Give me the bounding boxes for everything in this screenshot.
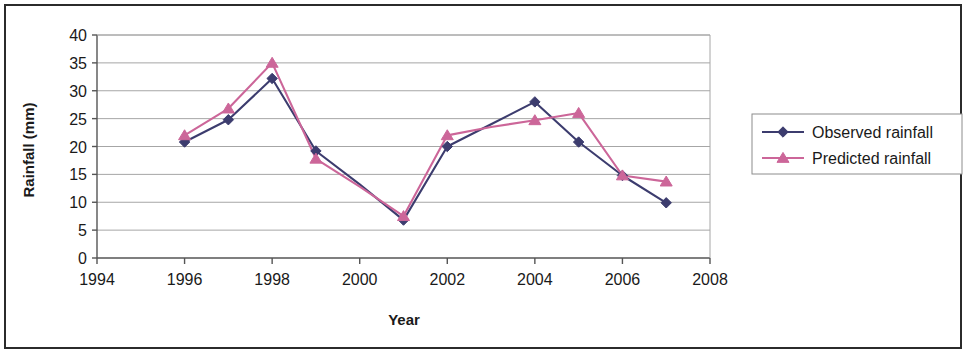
data-point-marker <box>573 107 585 117</box>
x-tick-label: 2002 <box>429 271 465 288</box>
data-point-marker <box>179 130 191 140</box>
x-axis-title: Year <box>388 311 420 328</box>
legend-label: Observed rainfall <box>812 124 933 141</box>
y-tick-label: 10 <box>69 194 87 211</box>
y-axis-title: Rainfall (mm) <box>20 102 37 197</box>
y-tick-label: 0 <box>78 250 87 267</box>
x-tick-label: 2004 <box>517 271 553 288</box>
y-tick-labels: 0510152025303540 <box>69 27 97 267</box>
y-tick-label: 15 <box>69 166 87 183</box>
data-series <box>179 57 673 225</box>
y-tick-label: 30 <box>69 83 87 100</box>
x-tick-label: 2000 <box>342 271 378 288</box>
legend: Observed rainfallPredicted rainfall <box>752 114 962 174</box>
x-tick-label: 2008 <box>692 271 728 288</box>
chart-figure: 0510152025303540 19941996199820002002200… <box>0 0 968 357</box>
y-tick-label: 5 <box>78 222 87 239</box>
data-point-marker <box>266 57 278 67</box>
x-tick-label: 1994 <box>79 271 115 288</box>
x-tick-labels: 19941996199820002002200420062008 <box>79 258 728 288</box>
x-tick-label: 2006 <box>605 271 641 288</box>
series-line <box>185 78 667 220</box>
series-line <box>185 63 667 216</box>
data-point-marker <box>661 198 671 208</box>
y-tick-label: 20 <box>69 139 87 156</box>
y-tick-label: 25 <box>69 111 87 128</box>
y-tick-label: 35 <box>69 55 87 72</box>
x-tick-label: 1996 <box>167 271 203 288</box>
x-tick-label: 1998 <box>254 271 290 288</box>
rainfall-line-chart: 0510152025303540 19941996199820002002200… <box>0 0 968 357</box>
legend-label: Predicted rainfall <box>812 150 931 167</box>
y-tick-label: 40 <box>69 27 87 44</box>
